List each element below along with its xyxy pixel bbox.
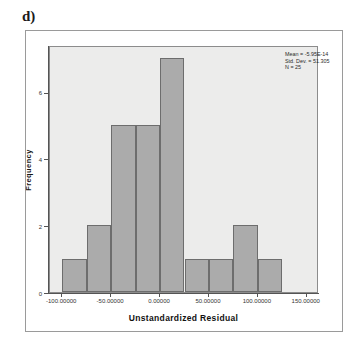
histogram-bars bbox=[50, 47, 317, 292]
x-axis-tick-label: 150.00000 bbox=[292, 298, 320, 304]
x-axis-tick-mark bbox=[208, 293, 209, 297]
x-axis-title: Unstandardized Residual bbox=[49, 313, 318, 323]
y-axis-title: Frequency bbox=[24, 149, 33, 191]
panel-letter: d) bbox=[22, 9, 35, 24]
stats-line: Std. Dev. = 51.305 bbox=[285, 58, 329, 65]
x-axis-tick-label: 0.00000 bbox=[148, 298, 170, 304]
histogram-bar bbox=[160, 58, 184, 292]
histogram-bar bbox=[209, 259, 233, 292]
x-axis-ticks: -100.00000-50.000000.0000050.00000100.00… bbox=[49, 293, 318, 294]
stats-line: N = 25 bbox=[285, 64, 329, 71]
x-axis-tick-mark bbox=[61, 293, 62, 297]
histogram-figure: d) 0246 Frequency -100.00000-50.000000.0… bbox=[0, 0, 361, 353]
chart-canvas: 0246 Frequency -100.00000-50.000000.0000… bbox=[26, 31, 344, 333]
stats-line: Mean = -5.95E-14 bbox=[285, 51, 329, 58]
x-axis-tick-label: 50.00000 bbox=[195, 298, 220, 304]
x-axis-tick-mark bbox=[110, 293, 111, 297]
figure-outer-frame: 0246 Frequency -100.00000-50.000000.0000… bbox=[25, 30, 343, 332]
stats-annotation: Mean = -5.95E-14Std. Dev. = 51.305N = 25 bbox=[285, 51, 329, 71]
x-axis-tick-label: 100.00000 bbox=[243, 298, 271, 304]
histogram-bar bbox=[233, 225, 257, 292]
y-axis-title-holder: Frequency bbox=[26, 46, 48, 294]
histogram-bar bbox=[62, 259, 86, 292]
x-axis-tick-label: -100.00000 bbox=[46, 298, 76, 304]
histogram-bar bbox=[87, 225, 111, 292]
x-axis-tick-label: -50.00000 bbox=[97, 298, 124, 304]
plot-area bbox=[49, 46, 318, 293]
x-axis-tick-mark bbox=[159, 293, 160, 297]
x-axis-tick-mark bbox=[257, 293, 258, 297]
y-axis-line bbox=[48, 46, 49, 294]
x-axis-tick-mark bbox=[306, 293, 307, 297]
histogram-bar bbox=[136, 125, 160, 292]
histogram-bar bbox=[111, 125, 135, 292]
histogram-bar bbox=[185, 259, 209, 292]
histogram-bar bbox=[258, 259, 282, 292]
